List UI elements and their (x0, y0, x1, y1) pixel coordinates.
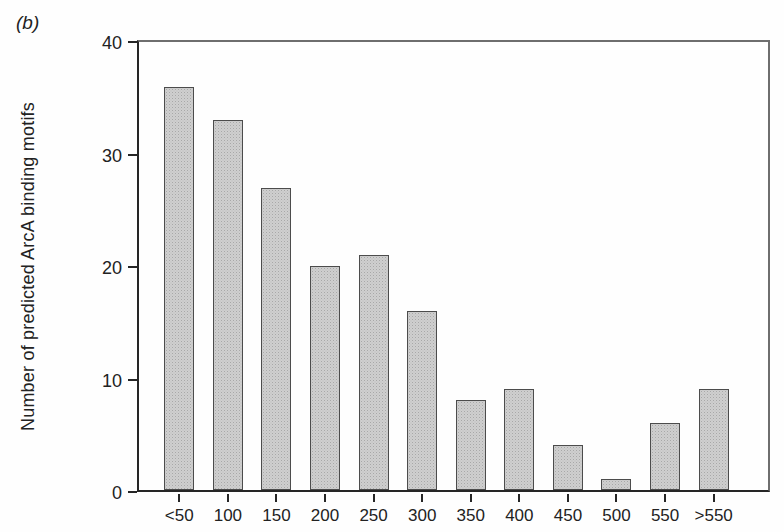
bar-slot (204, 42, 253, 490)
x-tick-slot (204, 494, 253, 502)
bar-250 (359, 255, 389, 490)
bars-row (139, 42, 768, 490)
y-tick-mark (128, 491, 137, 493)
x-tick-label: 500 (592, 506, 641, 526)
x-tick-label: 200 (301, 506, 350, 526)
x-tick-slot (398, 494, 447, 502)
y-tick-mark (128, 41, 137, 43)
bar-slot (155, 42, 204, 490)
y-tick-label: 10 (82, 372, 122, 390)
x-tick-mark (664, 494, 666, 502)
x-tick-slot (446, 494, 495, 502)
x-tick-label: 400 (495, 506, 544, 526)
x-tick-mark (518, 494, 520, 502)
bar-300 (407, 311, 437, 490)
x-tick-mark (373, 494, 375, 502)
bar-400 (504, 389, 534, 490)
x-tick-slot (495, 494, 544, 502)
y-tick-mark (128, 154, 137, 156)
x-tick-slot (155, 494, 204, 502)
x-tick-label: 100 (204, 506, 253, 526)
y-tick-label: 20 (82, 259, 122, 277)
x-tick-slot (641, 494, 690, 502)
bar-100 (213, 120, 243, 490)
x-tick-slot (592, 494, 641, 502)
bar-350 (456, 400, 486, 490)
bar-slot (446, 42, 495, 490)
bar-500 (601, 479, 631, 490)
x-axis-tick-labels: <50100150200250300350400450500550>550 (139, 506, 768, 526)
y-tick-label: 40 (82, 34, 122, 52)
x-axis-tick-marks (139, 494, 768, 502)
bar-slot (495, 42, 544, 490)
x-tick-label: 550 (641, 506, 690, 526)
bar-slot (544, 42, 593, 490)
y-tick-mark (128, 266, 137, 268)
plot-area: 010203040 <50100150200250300350400450500… (137, 40, 770, 492)
bar-450 (553, 445, 583, 490)
x-tick-mark (324, 494, 326, 502)
y-tick-label: 30 (82, 147, 122, 165)
x-tick-label: <50 (155, 506, 204, 526)
x-tick-label: 350 (446, 506, 495, 526)
x-tick-mark (615, 494, 617, 502)
y-tick-label: 0 (82, 484, 122, 502)
x-tick-slot (252, 494, 301, 502)
x-tick-mark (178, 494, 180, 502)
bar-slot (252, 42, 301, 490)
bar-150 (261, 188, 291, 490)
bar-slot (592, 42, 641, 490)
x-tick-slot (301, 494, 350, 502)
x-tick-label: 250 (349, 506, 398, 526)
bar-slot (689, 42, 738, 490)
x-tick-mark (567, 494, 569, 502)
panel-label: (b) (16, 12, 39, 34)
x-tick-mark (227, 494, 229, 502)
x-tick-mark (421, 494, 423, 502)
x-tick-label: 450 (544, 506, 593, 526)
x-tick-label: 300 (398, 506, 447, 526)
bar-slot (398, 42, 447, 490)
bar-slot (301, 42, 350, 490)
x-tick-slot (689, 494, 738, 502)
x-tick-mark (470, 494, 472, 502)
bar-<50 (164, 87, 194, 490)
x-tick-label: >550 (689, 506, 738, 526)
x-tick-mark (275, 494, 277, 502)
y-axis-title: Number of predicted ArcA binding motifs (18, 97, 39, 437)
y-tick-mark (128, 379, 137, 381)
bar-slot (641, 42, 690, 490)
figure-panel-b: (b) Number of predicted ArcA binding mot… (0, 0, 784, 532)
bar-200 (310, 266, 340, 490)
x-tick-slot (349, 494, 398, 502)
bar->550 (699, 389, 729, 490)
x-tick-slot (544, 494, 593, 502)
x-tick-label: 150 (252, 506, 301, 526)
bar-550 (650, 423, 680, 490)
x-tick-mark (713, 494, 715, 502)
bar-slot (349, 42, 398, 490)
